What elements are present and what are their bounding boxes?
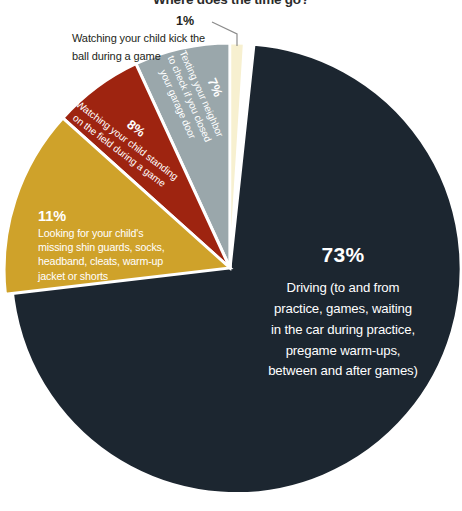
kick-line-2: ball during a game — [72, 50, 161, 62]
slice-label-shinguards: 11% Looking for your child's missing shi… — [38, 208, 210, 283]
driving-line-1: Driving (to and from — [287, 280, 400, 295]
pie-chart-figure: Where does the time go? 73% Driving (to … — [0, 0, 462, 511]
callout-label-kick: Watching your child kick the ball during… — [72, 28, 224, 64]
driving-line-2: practice, games, waiting — [274, 301, 412, 316]
driving-line-4: pregame warm-ups, — [286, 343, 401, 358]
slice-percent-shinguards: 11% — [38, 208, 210, 224]
slice-label-driving: 73% Driving (to and from practice, games… — [243, 243, 443, 382]
kick-line-1: Watching your child kick the — [72, 32, 205, 44]
shinguards-line-3: headband, cleats, warm-up — [38, 255, 163, 267]
shinguards-line-1: Looking for your child's — [38, 227, 143, 239]
callout-percent-kick: 1% — [176, 14, 194, 28]
slice-description-shinguards: Looking for your child's missing shin gu… — [38, 226, 210, 283]
shinguards-line-4: jacket or shorts — [38, 270, 108, 282]
driving-line-5: between and after games) — [268, 363, 418, 378]
driving-line-3: in the car during practice, — [271, 322, 415, 337]
slice-description-driving: Driving (to and from practice, games, wa… — [243, 278, 443, 382]
slice-percent-driving: 73% — [243, 243, 443, 267]
shinguards-line-2: missing shin guards, socks, — [38, 241, 165, 253]
callout-description-kick: Watching your child kick the ball during… — [72, 32, 205, 62]
